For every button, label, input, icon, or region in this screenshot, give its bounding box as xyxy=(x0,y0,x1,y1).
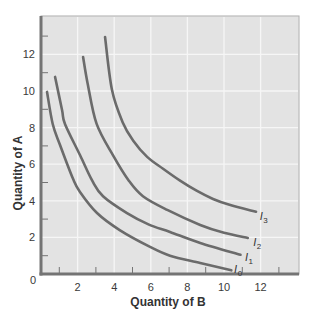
indifference-curve-chart: 24681012246810120 I0I1I2I3 Quantity of B… xyxy=(0,0,309,316)
y-tick-label: 10 xyxy=(23,85,35,97)
y-axis-title: Quantity of A xyxy=(11,135,25,210)
x-tick-label: 4 xyxy=(111,281,117,293)
origin-label: 0 xyxy=(30,274,36,286)
x-tick-label: 10 xyxy=(218,281,230,293)
y-tick-label: 6 xyxy=(29,158,35,170)
y-tick-label: 8 xyxy=(29,122,35,134)
y-tick-label: 12 xyxy=(23,48,35,60)
y-tick-label: 2 xyxy=(29,231,35,243)
x-tick-label: 2 xyxy=(75,281,81,293)
x-tick-label: 6 xyxy=(148,281,154,293)
x-tick-label: 12 xyxy=(254,281,266,293)
x-axis-title: Quantity of B xyxy=(130,295,206,309)
x-tick-label: 8 xyxy=(184,281,190,293)
y-tick-label: 4 xyxy=(29,195,35,207)
